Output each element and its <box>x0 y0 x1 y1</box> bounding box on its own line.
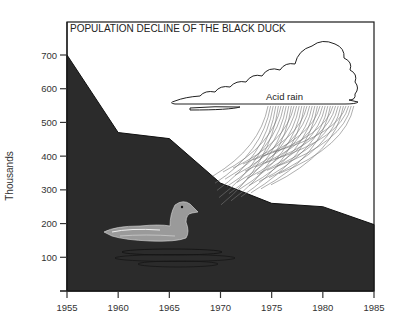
x-tick-label: 1980 <box>312 302 333 313</box>
y-tick-label: 700 <box>41 50 57 61</box>
y-tick-label: 200 <box>41 218 57 229</box>
x-tick-label: 1985 <box>363 302 384 313</box>
y-tick-label: 100 <box>41 252 57 263</box>
y-axis-label: Thousands <box>4 151 15 200</box>
y-tick-label: 500 <box>41 117 57 128</box>
x-tick-label: 1970 <box>210 302 231 313</box>
chart: Acid rain POPULATION DECLINE OF THE BLAC… <box>0 0 406 335</box>
x-tick-label: 1955 <box>56 302 77 313</box>
x-tick-label: 1960 <box>108 302 129 313</box>
x-tick-label: 1975 <box>261 302 282 313</box>
y-axis: 100200300400500600700 <box>41 22 67 291</box>
y-tick-label: 600 <box>41 83 57 94</box>
chart-title: POPULATION DECLINE OF THE BLACK DUCK <box>70 23 286 34</box>
y-tick-label: 300 <box>41 184 57 195</box>
x-tick-label: 1965 <box>159 302 180 313</box>
y-tick-label: 400 <box>41 151 57 162</box>
x-axis: 1955196019651970197519801985 <box>56 291 384 313</box>
acid-rain-label: Acid rain <box>266 91 303 102</box>
